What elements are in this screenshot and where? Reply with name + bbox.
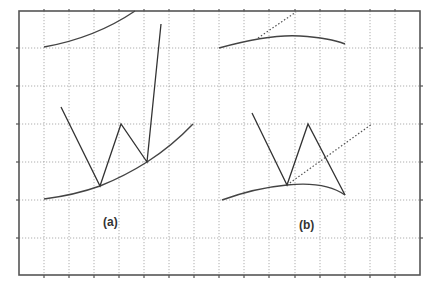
panel-b-bottom-dotted-extension (287, 124, 372, 185)
panel-b-bottom-curve (222, 184, 345, 200)
panel-b-label: (b) (299, 218, 314, 232)
panel-a-bottom-curve (44, 124, 193, 199)
diagram-canvas: (a) (b) (0, 0, 439, 292)
diagram-svg (0, 0, 439, 292)
panel-a-top-curve (44, 11, 135, 47)
panel-b-top-dotted-extension (258, 12, 296, 38)
panel-a-label: (a) (103, 215, 118, 229)
panel-b (219, 12, 372, 200)
panel-b-top-curve (219, 36, 345, 48)
panel-a (44, 11, 193, 199)
